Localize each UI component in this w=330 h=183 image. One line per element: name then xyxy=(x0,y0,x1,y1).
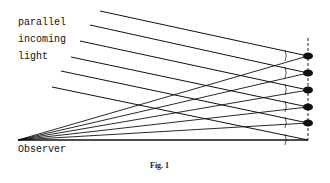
figure-caption: Fig. 1 xyxy=(150,161,169,170)
sight-line xyxy=(18,73,308,140)
raindrop-icon xyxy=(303,86,313,93)
raindrop-icon xyxy=(303,119,313,126)
sight-line xyxy=(18,90,308,140)
label-observer: Observer xyxy=(18,145,66,155)
raindrop-icon xyxy=(303,103,313,110)
angle-arc-markers xyxy=(285,50,286,145)
sight-line xyxy=(18,107,308,140)
label-light: light xyxy=(18,52,48,62)
raindrop-icon xyxy=(303,69,313,76)
raindrop-icon xyxy=(303,52,313,59)
label-parallel: parallel xyxy=(18,18,66,28)
incoming-ray xyxy=(100,11,308,56)
label-incoming: incoming xyxy=(18,35,66,45)
parallel-incoming-rays xyxy=(52,11,308,140)
